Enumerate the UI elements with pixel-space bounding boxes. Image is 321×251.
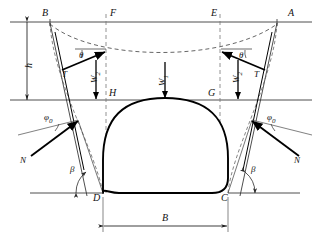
label-point-F: F: [110, 8, 116, 18]
force-vector-T-right: [243, 32, 272, 170]
figure-canvas: B F E A H G D C h B θ θ T T W2 W1 W2 φ0 …: [0, 0, 321, 251]
theta-vector-left: [62, 49, 106, 70]
label-force-N-left: N: [20, 156, 26, 165]
label-force-W1-center-subscript: 1: [162, 75, 170, 79]
label-angle-phi0-right-subscript: 0: [272, 117, 276, 125]
label-force-W1-center-base: W: [157, 79, 167, 87]
label-force-W2-right-base: W: [231, 76, 241, 84]
label-force-W2-right: W2: [232, 72, 244, 83]
settlement-trough-curve: [50, 24, 277, 53]
force-vector-N-left: [18, 120, 78, 156]
label-angle-beta-right: β: [251, 165, 255, 174]
label-angle-phi0-left-subscript: 0: [49, 117, 53, 125]
label-angle-theta-right: θ: [239, 51, 243, 60]
label-point-C: C: [221, 193, 228, 203]
label-point-B: B: [42, 8, 48, 18]
label-point-E: E: [211, 8, 217, 18]
label-angle-beta-left: β: [70, 165, 74, 174]
label-force-W2-right-subscript: 2: [236, 72, 244, 76]
label-point-D: D: [93, 193, 100, 203]
label-force-N-right: N: [294, 156, 300, 165]
label-force-W2-left: W2: [90, 72, 102, 83]
label-point-A: A: [288, 8, 294, 18]
label-force-W2-left-subscript: 2: [94, 72, 102, 76]
force-vector-N-right: [252, 120, 312, 156]
beta-angle-right: [245, 172, 255, 193]
label-force-T-left: T: [62, 70, 67, 79]
label-force-W2-left-base: W: [89, 76, 99, 84]
diagram-svg: [0, 0, 321, 251]
label-point-H: H: [109, 88, 116, 98]
label-dimension-B: B: [162, 213, 168, 223]
label-point-G: G: [208, 88, 215, 98]
label-force-T-right: T: [254, 70, 259, 79]
label-dimension-h: h: [24, 63, 34, 68]
label-angle-phi0-left: φ0: [44, 113, 52, 125]
surface-tick-marks: [50, 19, 277, 26]
label-angle-theta-left: θ: [79, 51, 83, 60]
tunnel-outline: [103, 98, 228, 193]
label-force-W1-center: W1: [158, 75, 170, 86]
label-angle-phi0-right: φ0: [267, 113, 275, 125]
